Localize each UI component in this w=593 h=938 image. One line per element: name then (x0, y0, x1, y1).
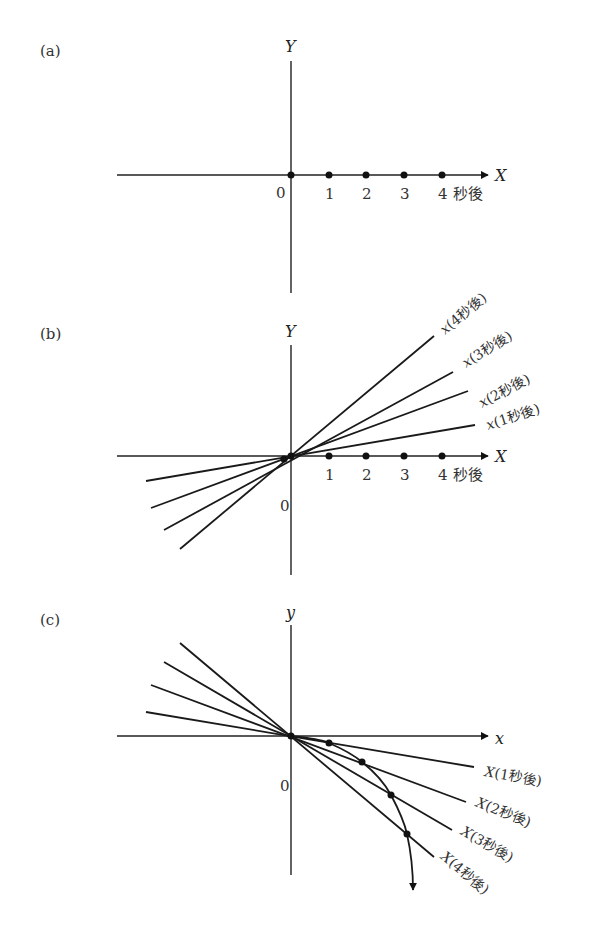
panel-c-dot-1 (326, 740, 333, 747)
panel-c-line-4s (180, 643, 434, 857)
panel-a-unit-label: 秒後 (453, 185, 483, 203)
panel-b-dot-1 (326, 453, 333, 460)
panel-c-line-label-4s: X(4秒後) (437, 847, 492, 897)
panel-c-dot-0 (288, 733, 295, 740)
panel-a-dot-3 (401, 172, 408, 179)
panel-a-origin-label: 0 (276, 184, 286, 202)
panel-c-line-1s (146, 712, 474, 767)
panel-c-dot-4 (404, 831, 411, 838)
panel-c: (c) y x 0 X(1秒後) X(2秒後) X(3秒後) X(4秒後) (40, 603, 543, 897)
panel-a-x-axis-label: X (493, 166, 507, 185)
panel-c-line-2s (151, 685, 466, 802)
panel-b-dot-origin-left (281, 456, 288, 463)
panel-a-tick-2: 2 (362, 185, 372, 203)
panel-a-tick-1: 1 (325, 185, 335, 203)
panel-a-dot-0 (288, 172, 295, 179)
panel-c-line-label-2s: X(2秒後) (473, 794, 534, 831)
panel-c-line-3s (164, 662, 452, 830)
panel-a-dot-2 (363, 172, 370, 179)
panel-c-dot-2 (359, 759, 366, 766)
panel-c-dot-3 (388, 792, 395, 799)
panel-b-line-label-4s: x(4秒後) (437, 289, 490, 337)
panel-b-tick-2: 2 (362, 466, 372, 484)
panel-a-label: (a) (40, 42, 61, 60)
panel-b-dot-3 (401, 453, 408, 460)
panel-b-line-4s (180, 336, 434, 549)
panel-c-line-label-1s: X(1秒後) (482, 763, 543, 789)
panel-c-x-axis-label: x (495, 729, 504, 748)
panel-c-label: (c) (40, 611, 60, 629)
panel-a-tick-4: 4 (438, 185, 448, 203)
diagram-canvas: (a) Y X 0 1 2 3 4 秒後 (b) Y X 0 1 (0, 0, 593, 938)
panel-a: (a) Y X 0 1 2 3 4 秒後 (40, 37, 507, 293)
panel-a-y-axis-label: Y (285, 37, 297, 56)
panel-b-origin-label: 0 (280, 497, 290, 515)
panel-b-x-axis-label: X (493, 447, 507, 466)
panel-b: (b) Y X 0 1 2 3 4 秒後 x(1秒後) x(2秒後) x(3秒後… (40, 289, 542, 575)
panel-b-line-label-3s: x(3秒後) (459, 327, 515, 370)
panel-c-origin-label: 0 (280, 777, 290, 795)
panel-b-tick-4: 4 (438, 466, 448, 484)
panel-b-line-1s (146, 425, 475, 481)
panel-b-label: (b) (40, 325, 61, 343)
panel-a-dot-4 (439, 172, 446, 179)
panel-b-dot-2 (363, 453, 370, 460)
panel-a-dot-1 (326, 172, 333, 179)
panel-b-dot-0 (288, 453, 295, 460)
panel-c-y-axis-label: y (285, 603, 296, 622)
panel-b-unit-label: 秒後 (453, 466, 483, 484)
panel-b-line-3s (164, 372, 453, 530)
panel-b-y-axis-label: Y (285, 322, 297, 341)
panel-a-tick-3: 3 (400, 185, 410, 203)
panel-b-tick-3: 3 (400, 466, 410, 484)
panel-c-line-label-3s: X(3秒後) (458, 822, 517, 865)
panel-b-dot-4 (439, 453, 446, 460)
panel-b-tick-1: 1 (325, 466, 335, 484)
